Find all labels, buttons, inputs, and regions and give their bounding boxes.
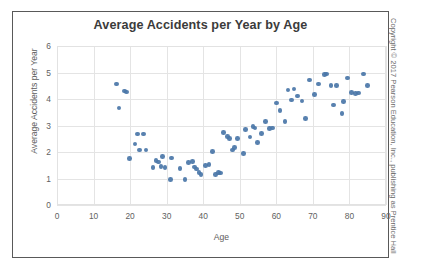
data-point [329, 83, 334, 88]
x-tick-label-60: 60 [272, 211, 281, 221]
data-point [210, 149, 215, 154]
data-point [163, 165, 168, 170]
data-point [207, 162, 212, 167]
data-point [283, 119, 288, 124]
data-point [361, 72, 366, 77]
data-point [286, 88, 291, 93]
data-point [253, 126, 258, 131]
data-point [270, 126, 275, 131]
y-tick-label-6: 6 [37, 41, 51, 51]
data-point [278, 108, 283, 113]
data-point [255, 140, 260, 145]
data-point [114, 82, 119, 87]
data-point [137, 148, 142, 153]
data-point [243, 127, 248, 132]
data-point [274, 101, 279, 106]
plot-area [57, 46, 386, 205]
gridline-y-3 [57, 126, 386, 127]
gridline-y-1 [57, 179, 386, 180]
data-point [218, 171, 223, 176]
gridline-y-6 [57, 46, 386, 47]
data-point [183, 177, 188, 182]
chart-title: Average Accidents per Year by Age [12, 18, 389, 32]
x-tick-label-50: 50 [235, 211, 244, 221]
data-point [178, 166, 183, 171]
y-tick-label-0: 0 [37, 200, 51, 210]
data-point [117, 106, 122, 111]
copyright-notice: Copyright © 2017 Pearson Education, Inc.… [389, 18, 398, 254]
data-point [127, 156, 132, 161]
data-point [232, 145, 237, 150]
data-point [331, 103, 336, 108]
gridline-y-5 [57, 73, 386, 74]
data-point [263, 119, 268, 124]
data-point [259, 131, 264, 136]
data-point [334, 83, 339, 88]
x-tick-label-30: 30 [162, 211, 171, 221]
data-point [295, 94, 300, 99]
x-tick-label-70: 70 [308, 211, 317, 221]
x-tick-label-40: 40 [199, 211, 208, 221]
data-point [124, 90, 129, 95]
gridline-x-90 [386, 46, 387, 205]
data-point [289, 98, 294, 103]
data-point [356, 91, 361, 96]
data-point [324, 72, 329, 77]
y-tick-label-1: 1 [37, 174, 51, 184]
data-point [345, 76, 350, 81]
data-point [235, 136, 240, 141]
x-tick-label-20: 20 [125, 211, 134, 221]
data-point [292, 87, 297, 92]
y-tick-label-4: 4 [37, 94, 51, 104]
x-axis-title: Age [57, 232, 386, 242]
data-point [340, 111, 345, 116]
data-point [312, 92, 317, 97]
data-point [341, 99, 346, 104]
screenshot-page: Average Accidents per Year by Age 010203… [0, 0, 434, 273]
data-point [135, 132, 140, 137]
data-point [300, 99, 305, 104]
gridline-y-0 [57, 205, 386, 206]
data-point [160, 154, 165, 159]
y-tick-label-2: 2 [37, 147, 51, 157]
data-point [133, 142, 138, 147]
data-point [190, 159, 195, 164]
x-tick-label-0: 0 [55, 211, 60, 221]
data-point [241, 151, 246, 156]
data-point [227, 136, 232, 141]
data-point [303, 116, 308, 121]
x-tick-label-80: 80 [345, 211, 354, 221]
data-point [316, 82, 321, 87]
y-tick-label-5: 5 [37, 68, 51, 78]
data-point [169, 156, 174, 161]
y-axis-title: Average Accidents per Year [29, 21, 39, 181]
data-point [307, 78, 312, 83]
data-point [141, 132, 146, 137]
data-point [151, 165, 156, 170]
gridline-y-2 [57, 152, 386, 153]
data-point [365, 83, 370, 88]
gridline-y-4 [57, 99, 386, 100]
y-tick-label-3: 3 [37, 121, 51, 131]
data-point [168, 177, 173, 182]
data-point [248, 135, 253, 140]
x-tick-label-10: 10 [89, 211, 98, 221]
